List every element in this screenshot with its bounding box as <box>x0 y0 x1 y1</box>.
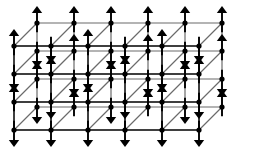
lattice-site-dot <box>34 76 39 81</box>
lattice-site-dot <box>71 20 76 25</box>
spin-lattice-figure: 3D cubic spin lattice with up and down s… <box>0 0 262 147</box>
lattice-site-dot <box>182 20 187 25</box>
lattice-site-dot <box>71 76 76 81</box>
lattice-site-dot <box>71 104 76 109</box>
lattice-site-dot <box>159 71 164 76</box>
lattice-site-dot <box>48 43 53 48</box>
lattice-site-dot <box>182 76 187 81</box>
lattice-site-dot <box>108 104 113 109</box>
lattice-site-dot <box>11 99 16 104</box>
lattice-site-dot <box>145 104 150 109</box>
lattice-site-dot <box>122 99 127 104</box>
lattice-site-dot <box>85 43 90 48</box>
lattice-site-dot <box>34 20 39 25</box>
lattice-site-dot <box>11 71 16 76</box>
lattice-site-dot <box>196 99 201 104</box>
lattice-site-dot <box>85 127 90 132</box>
lattice-site-dot <box>145 20 150 25</box>
lattice-site-dot <box>48 127 53 132</box>
lattice-site-dot <box>85 71 90 76</box>
lattice-site-dot <box>71 48 76 53</box>
lattice-site-dot <box>48 99 53 104</box>
lattice-site-dot <box>219 104 224 109</box>
lattice-site-dot <box>34 48 39 53</box>
lattice-site-dot <box>196 127 201 132</box>
lattice-site-dot <box>48 71 53 76</box>
lattice-diagram <box>0 0 262 147</box>
lattice-site-dot <box>85 99 90 104</box>
lattice-site-dot <box>219 76 224 81</box>
lattice-site-dot <box>196 71 201 76</box>
lattice-site-dot <box>159 127 164 132</box>
lattice-site-dot <box>108 76 113 81</box>
lattice-site-dot <box>11 127 16 132</box>
lattice-site-dot <box>196 43 201 48</box>
lattice-site-dot <box>159 43 164 48</box>
lattice-site-dot <box>108 20 113 25</box>
lattice-site-dot <box>108 48 113 53</box>
lattice-site-dot <box>34 104 39 109</box>
lattice-site-dot <box>145 48 150 53</box>
lattice-site-dot <box>219 20 224 25</box>
lattice-site-dot <box>122 43 127 48</box>
lattice-site-dot <box>122 127 127 132</box>
lattice-site-dot <box>159 99 164 104</box>
lattice-site-dot <box>11 43 16 48</box>
lattice-site-dot <box>122 71 127 76</box>
lattice-site-dot <box>182 48 187 53</box>
lattice-site-dot <box>219 48 224 53</box>
lattice-site-dot <box>182 104 187 109</box>
lattice-site-dot <box>145 76 150 81</box>
